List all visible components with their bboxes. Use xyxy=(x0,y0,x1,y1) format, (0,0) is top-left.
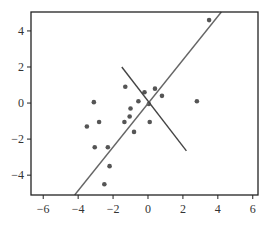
data-point xyxy=(160,94,165,99)
data-point xyxy=(153,86,158,91)
data-point xyxy=(132,130,137,135)
series-layer xyxy=(75,12,222,195)
y-axis: 420−2−4 xyxy=(11,24,31,182)
data-point xyxy=(207,18,212,23)
x-axis: −6−4−20246 xyxy=(37,195,256,216)
x-tick-label: −2 xyxy=(107,202,120,216)
y-tick-label: 4 xyxy=(18,24,24,38)
data-point xyxy=(127,114,132,119)
data-point xyxy=(122,120,127,125)
y-tick-label: −2 xyxy=(11,132,24,146)
y-tick-label: 2 xyxy=(18,60,24,74)
data-point xyxy=(128,106,133,111)
data-point xyxy=(92,145,97,150)
data-point xyxy=(147,120,152,125)
data-point xyxy=(195,99,200,104)
data-point xyxy=(136,99,141,104)
data-point xyxy=(85,124,90,129)
data-point xyxy=(97,120,102,125)
x-tick-label: −6 xyxy=(37,202,50,216)
data-point xyxy=(123,85,128,90)
x-tick-label: 2 xyxy=(180,202,186,216)
plot-frame xyxy=(31,12,258,195)
scatter-chart: −6−4−20246 420−2−4 xyxy=(0,0,278,225)
data-point xyxy=(92,100,97,105)
principal-axis-line xyxy=(75,12,222,195)
x-tick-label: 0 xyxy=(145,202,151,216)
data-point xyxy=(102,182,107,187)
x-tick-label: 6 xyxy=(250,202,256,216)
data-point xyxy=(106,145,111,150)
x-tick-label: −4 xyxy=(72,202,85,216)
y-tick-label: 0 xyxy=(18,96,24,110)
x-tick-label: 4 xyxy=(215,202,221,216)
y-tick-label: −4 xyxy=(11,168,24,182)
data-point xyxy=(107,164,112,169)
